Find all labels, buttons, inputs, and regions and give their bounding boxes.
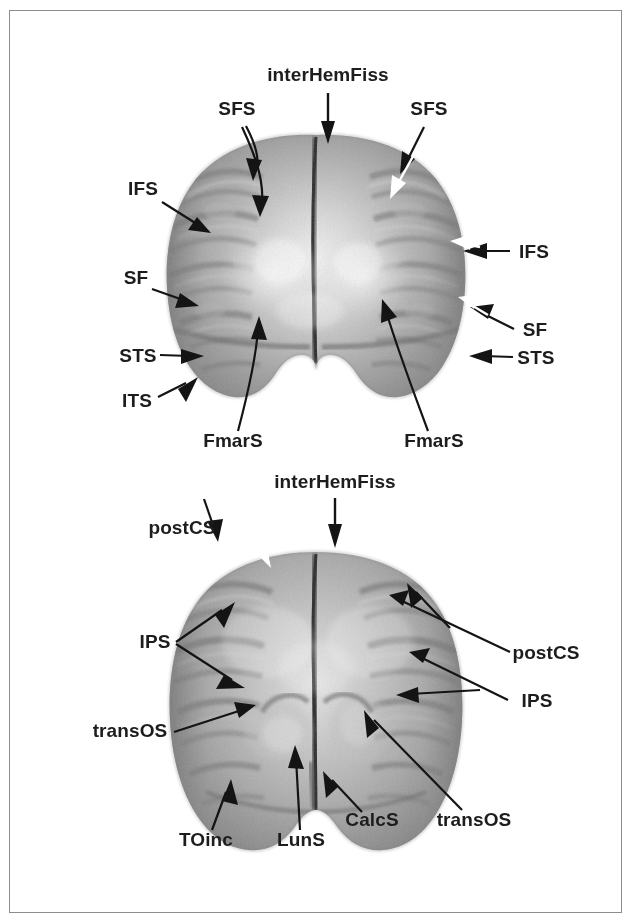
label-ITS-left: ITS xyxy=(122,390,152,411)
label-FmarS-left: FmarS xyxy=(203,430,263,451)
annotation-SF-right xyxy=(458,294,514,329)
label-STS-left: STS xyxy=(119,345,156,366)
label-postCS-left: postCS xyxy=(148,517,215,538)
annotation-ITS-left xyxy=(158,377,198,402)
brain-render-posterior xyxy=(162,546,470,858)
label-transOS-right: transOS xyxy=(437,809,512,830)
label-IFS-right: IFS xyxy=(519,241,549,262)
figure-border-frame: interHemFiss SFS SFS IFS IFS SF SF STS S… xyxy=(9,10,622,913)
label-SF-right: SF xyxy=(523,319,547,340)
label-STS-right: STS xyxy=(517,347,554,368)
label-transOS-left: transOS xyxy=(93,720,168,741)
label-SFS-right: SFS xyxy=(410,98,447,119)
annotation-STS-right xyxy=(469,349,513,364)
label-LunS: LunS xyxy=(277,829,325,850)
label-SF-left: SF xyxy=(124,267,148,288)
label-postCS-right: postCS xyxy=(512,642,579,663)
label-CalcS: CalcS xyxy=(345,809,398,830)
annotation-interHemFiss-bottom xyxy=(328,498,342,548)
upper-panel-anterior-view: interHemFiss SFS SFS IFS IFS SF SF STS S… xyxy=(10,11,623,462)
label-IFS-left: IFS xyxy=(128,178,158,199)
label-FmarS-right: FmarS xyxy=(404,430,464,451)
lower-panel-posterior-view: interHemFiss postCS postCS IPS IPS trans… xyxy=(10,462,623,913)
label-IPS-right: IPS xyxy=(522,690,553,711)
label-SFS-left: SFS xyxy=(218,98,255,119)
label-IPS-left: IPS xyxy=(140,631,171,652)
label-TOinc: TOinc xyxy=(179,829,233,850)
brain-render-anterior xyxy=(160,129,472,403)
label-interHemFiss-bottom: interHemFiss xyxy=(274,471,396,492)
label-interHemFiss-top: interHemFiss xyxy=(267,64,389,85)
figure-root: interHemFiss SFS SFS IFS IFS SF SF STS S… xyxy=(0,0,633,922)
lower-panel-graphic: interHemFiss postCS postCS IPS IPS trans… xyxy=(10,462,623,914)
upper-panel-graphic: interHemFiss SFS SFS IFS IFS SF SF STS S… xyxy=(10,11,623,462)
